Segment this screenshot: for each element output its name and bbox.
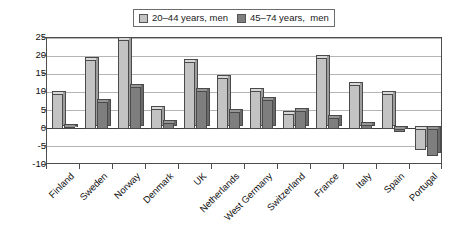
bar-chart: 20–44 years, men 45–74 years, men 252015…: [0, 0, 453, 248]
bar-spain-series-1: [382, 94, 393, 128]
y-tick-label: 20: [6, 50, 46, 60]
gridline: [47, 146, 441, 147]
bar-netherlands-series-1: [217, 78, 228, 129]
gridline: [47, 56, 441, 57]
bar-france-series-1: [316, 58, 327, 129]
x-tick-mark: [409, 164, 410, 169]
x-tick-label-finland: Finland: [47, 171, 76, 200]
bar-switzerland-series-1: [283, 114, 294, 129]
bar-side-face: [75, 124, 78, 126]
bar-side-face: [108, 99, 111, 126]
legend-entry-45-74-years-men: 45–74 years, men: [237, 13, 329, 23]
bar-side-face: [405, 126, 408, 130]
x-tick-label-norway: Norway: [113, 171, 142, 200]
y-tick-label: -5: [6, 141, 46, 151]
y-tick-label: -10: [6, 159, 46, 169]
bar-finland-series-1: [52, 94, 63, 128]
bar-portugal-series-2: [427, 129, 438, 156]
bar-norway-series-1: [118, 40, 129, 129]
x-tick-label-italy: Italy: [354, 171, 373, 190]
gridline: [47, 74, 441, 75]
bar-side-face: [339, 115, 342, 126]
x-tick-label-spain: Spain: [382, 171, 406, 195]
x-tick-mark: [46, 164, 47, 169]
x-tick-label-portugal: Portugal: [407, 171, 439, 203]
x-axis: FinlandSwedenNorwayDenmarkUKNetherlandsW…: [46, 164, 442, 248]
bar-side-face: [207, 88, 210, 126]
bar-france-series-2: [328, 118, 339, 129]
bar-spain-series-2: [394, 129, 405, 133]
bar-italy-series-2: [361, 125, 372, 129]
y-tick-label: 25: [6, 32, 46, 42]
y-tick-label: 10: [6, 87, 46, 97]
bar-sweden-series-2: [97, 102, 108, 129]
bar-west-germany-series-1: [250, 91, 261, 129]
legend-swatch-icon-dark: [237, 14, 246, 23]
bar-side-face: [372, 122, 375, 126]
y-tick-label: 15: [6, 69, 46, 79]
bar-sweden-series-1: [85, 60, 96, 129]
x-tick-mark: [441, 164, 442, 169]
bar-side-face: [174, 120, 177, 125]
y-tick-label: 0: [6, 123, 46, 133]
bar-side-face: [273, 97, 276, 126]
gridline: [47, 38, 441, 39]
bar-side-face: [306, 108, 309, 126]
x-tick-mark: [376, 164, 377, 169]
bar-side-face: [438, 126, 441, 153]
bar-italy-series-1: [349, 85, 360, 129]
bar-west-germany-series-2: [262, 100, 273, 129]
y-tick-label: 5: [6, 105, 46, 115]
x-tick-label-france: France: [313, 171, 341, 199]
bar-norway-series-2: [130, 87, 141, 129]
x-tick-label-denmark: Denmark: [141, 171, 175, 205]
x-tick-mark: [310, 164, 311, 169]
x-tick-mark: [178, 164, 179, 169]
x-tick-mark: [277, 164, 278, 169]
bar-netherlands-series-2: [229, 112, 240, 128]
y-axis: 2520151050-5-10: [0, 37, 46, 164]
bar-side-face: [141, 84, 144, 126]
x-tick-mark: [244, 164, 245, 169]
legend-label-20-44-years-men: 20–44 years, men: [152, 13, 228, 23]
bar-side-face: [360, 82, 363, 126]
plot-area: [46, 37, 442, 164]
legend-label-45-74-years-men: 45–74 years, men: [250, 13, 329, 23]
x-tick-mark: [112, 164, 113, 169]
x-tick-mark: [79, 164, 80, 169]
bar-uk-series-1: [184, 62, 195, 129]
x-tick-label-uk: UK: [192, 171, 208, 187]
x-tick-label-sweden: Sweden: [78, 171, 109, 202]
legend-swatch-icon-light: [139, 14, 148, 23]
x-tick-mark: [145, 164, 146, 169]
bar-portugal-series-1: [415, 129, 426, 151]
bar-side-face: [240, 109, 243, 125]
bar-switzerland-series-2: [295, 111, 306, 129]
bar-finland-series-2: [64, 127, 75, 129]
bar-side-face: [393, 91, 396, 125]
chart-legend: 20–44 years, men 45–74 years, men: [133, 9, 335, 27]
bar-denmark-series-1: [151, 109, 162, 129]
x-tick-mark: [343, 164, 344, 169]
bar-uk-series-2: [196, 91, 207, 129]
bar-side-face: [63, 91, 66, 125]
x-tick-mark: [211, 164, 212, 169]
bar-denmark-series-2: [163, 123, 174, 128]
legend-entry-20-44-years-men: 20–44 years, men: [139, 13, 228, 23]
